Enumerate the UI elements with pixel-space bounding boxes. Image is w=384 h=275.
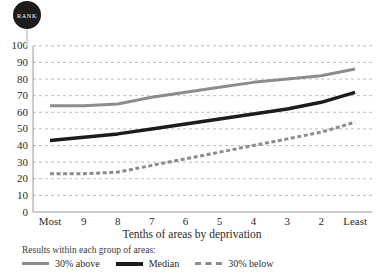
y-axis-tick-label: 80 bbox=[2, 74, 28, 85]
y-axis-tick-label: 40 bbox=[2, 140, 28, 151]
series-line-30-above bbox=[50, 69, 355, 106]
rank-badge-label: RANK bbox=[17, 12, 37, 19]
series-line-median bbox=[50, 92, 355, 140]
y-axis-tick-label: 0 bbox=[2, 207, 28, 218]
legend-items: 30% above Median 30% below bbox=[22, 258, 382, 269]
legend-swatch-median-icon bbox=[116, 262, 143, 266]
x-axis-title: Tenths of areas by deprivation bbox=[0, 228, 384, 240]
legend-label-median: Median bbox=[149, 258, 180, 269]
y-axis-tick-label: 50 bbox=[2, 123, 28, 134]
y-axis-tick-label: 20 bbox=[2, 173, 28, 184]
chart-plot-svg bbox=[0, 0, 384, 232]
legend-title: Results within each group of areas: bbox=[22, 245, 382, 256]
legend-label-below: 30% below bbox=[228, 258, 273, 269]
legend-swatch-below-icon bbox=[195, 262, 222, 265]
chart-legend: Results within each group of areas: 30% … bbox=[22, 245, 382, 269]
rank-badge-circle: RANK bbox=[13, 1, 41, 29]
y-axis-tick-label: 60 bbox=[2, 107, 28, 118]
rank-badge: RANK bbox=[13, 1, 43, 47]
y-axis-tick-label: 10 bbox=[2, 190, 28, 201]
legend-item-above: 30% above bbox=[22, 258, 100, 269]
y-axis-tick-label: 90 bbox=[2, 57, 28, 68]
legend-label-above: 30% above bbox=[55, 258, 100, 269]
chart-container: 1009080706050403020100 Most98765432Least… bbox=[0, 0, 384, 232]
legend-item-median: Median bbox=[116, 258, 180, 269]
y-axis-tick-label: 30 bbox=[2, 157, 28, 168]
series-line-30-below bbox=[50, 122, 355, 174]
chart-series-group bbox=[50, 69, 355, 174]
y-axis-tick-label: 70 bbox=[2, 90, 28, 101]
legend-item-below: 30% below bbox=[195, 258, 273, 269]
legend-swatch-above-icon bbox=[22, 262, 49, 265]
